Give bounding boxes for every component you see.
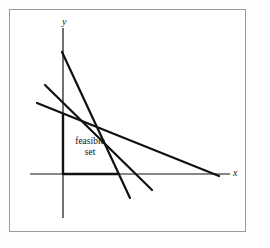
- axes-group: [30, 28, 230, 218]
- constraint-line-steep: [62, 52, 130, 198]
- x-axis-label: x: [233, 168, 237, 178]
- feasible-set-label-line-2: set: [66, 147, 114, 158]
- feasible-set-label: feasible set: [66, 136, 114, 158]
- constraint-lines-group: [37, 52, 219, 198]
- feasible-set-label-line-1: feasible: [66, 136, 114, 147]
- plot-canvas: [0, 0, 270, 248]
- figure-page: y x feasible set: [0, 0, 270, 248]
- y-axis-label: y: [62, 17, 66, 27]
